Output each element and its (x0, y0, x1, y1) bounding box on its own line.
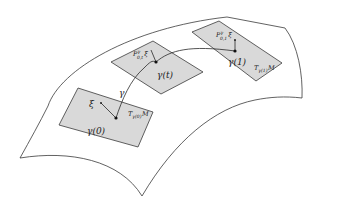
tip-xi (100, 102, 102, 104)
point-gamma-t (154, 60, 157, 63)
tip-transported-1 (234, 39, 236, 41)
manifold-surface (20, 17, 302, 196)
manifold-diagram: ξ γ(0) Tγ(0)M γ Pγ0,tξ γ(t) Pγ0,1ξ γ(1) … (0, 0, 338, 207)
point-gamma-1 (233, 49, 236, 52)
label-gamma-t: γ(t) (157, 70, 174, 80)
label-gamma-0: γ(0) (87, 126, 106, 136)
label-gamma-curve: γ (119, 88, 125, 98)
point-gamma-0 (114, 116, 117, 119)
label-gamma-1: γ(1) (228, 57, 247, 67)
